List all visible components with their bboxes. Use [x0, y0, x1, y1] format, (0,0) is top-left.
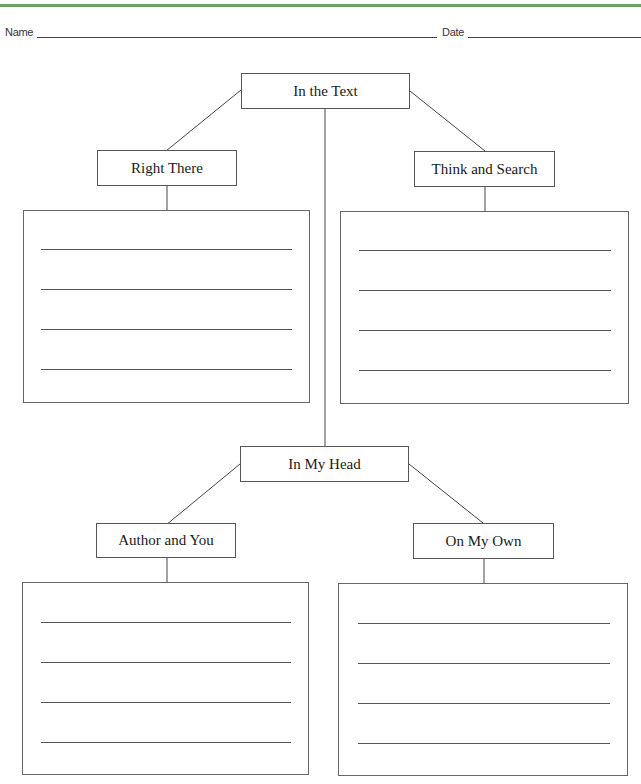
name-field[interactable] — [37, 37, 437, 38]
answer-line[interactable] — [358, 703, 610, 704]
node-on-my-own: On My Own — [413, 523, 554, 559]
node-author-and-you: Author and You — [96, 523, 236, 558]
panel-right-there — [23, 210, 310, 403]
node-label: Think and Search — [432, 161, 538, 178]
answer-line[interactable] — [41, 742, 291, 743]
node-label: Author and You — [118, 532, 213, 549]
answer-line[interactable] — [358, 743, 610, 744]
node-label: In My Head — [288, 456, 360, 473]
answer-line[interactable] — [359, 250, 611, 251]
node-think-and-search: Think and Search — [414, 151, 555, 187]
answer-line[interactable] — [41, 249, 292, 250]
date-label: Date — [442, 26, 464, 38]
date-field[interactable] — [468, 37, 641, 38]
node-label: Right There — [131, 160, 203, 177]
answer-line[interactable] — [358, 623, 610, 624]
top-accent-rule — [0, 4, 641, 7]
node-label: In the Text — [293, 83, 358, 100]
panel-author-and-you — [22, 582, 309, 775]
answer-line[interactable] — [41, 289, 292, 290]
answer-line[interactable] — [359, 330, 611, 331]
answer-line[interactable] — [41, 702, 291, 703]
answer-line[interactable] — [41, 622, 291, 623]
answer-line[interactable] — [359, 290, 611, 291]
panel-on-my-own — [338, 583, 628, 776]
answer-line[interactable] — [41, 662, 291, 663]
answer-line[interactable] — [359, 370, 611, 371]
name-label: Name — [5, 26, 33, 38]
answer-line[interactable] — [358, 663, 610, 664]
panel-think-and-search — [340, 211, 629, 404]
answer-line[interactable] — [41, 369, 292, 370]
node-in-my-head: In My Head — [240, 446, 409, 482]
node-label: On My Own — [446, 533, 522, 550]
answer-line[interactable] — [41, 329, 292, 330]
node-in-the-text: In the Text — [241, 73, 410, 109]
node-right-there: Right There — [97, 150, 237, 186]
